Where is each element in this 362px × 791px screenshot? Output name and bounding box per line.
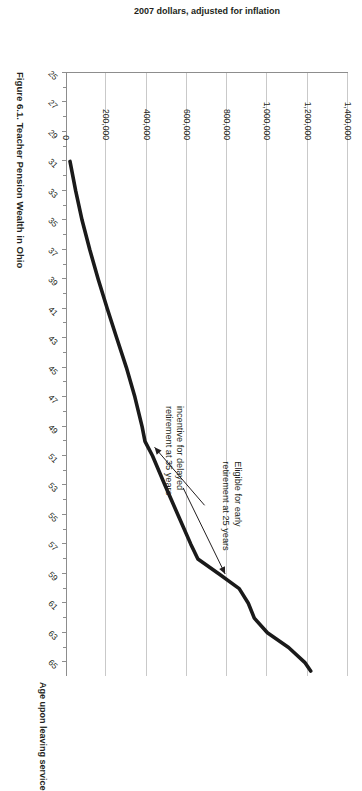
x-axis-tick [62,190,66,191]
x-axis-minor-tick [64,87,67,88]
x-axis-title: Age upon leaving service [38,682,48,791]
series-line-chart [66,73,348,677]
x-axis-minor-tick [64,234,67,235]
x-axis-tick [62,249,66,250]
x-axis-tick-label: 55 [46,510,60,524]
x-axis-tick-label: 35 [46,216,60,230]
x-axis-tick [62,543,66,544]
x-axis-minor-tick [64,146,67,147]
x-axis-tick-label: 31 [46,157,60,171]
x-axis-tick [62,72,66,73]
x-axis-minor-tick [64,588,67,589]
x-axis-tick-label: 47 [46,392,60,406]
x-axis-tick [62,308,66,309]
x-axis-tick [62,396,66,397]
x-axis-minor-tick [64,381,67,382]
x-axis-tick [62,367,66,368]
x-axis-tick [62,514,66,515]
x-axis-tick [62,160,66,161]
x-axis-tick [62,573,66,574]
x-axis-tick [62,337,66,338]
x-axis-tick-label: 39 [46,275,60,289]
x-axis-tick [62,484,66,485]
x-axis-tick-label: 51 [46,451,60,465]
x-axis-tick-label: 45 [46,363,60,377]
x-axis-tick-label: 33 [46,186,60,200]
x-axis-tick [62,661,66,662]
x-axis-minor-tick [64,617,67,618]
x-axis-tick-label: 43 [46,334,60,348]
x-axis-tick [62,426,66,427]
x-axis-tick-label: 65 [46,658,60,672]
x-axis-tick [62,602,66,603]
series-line [70,161,311,671]
x-axis-tick-label: 41 [46,304,60,318]
x-axis-tick-label: 49 [46,422,60,436]
annotation-early-retirement-line1: Eligible for early [231,461,243,550]
x-axis-tick-label: 53 [46,481,60,495]
x-axis-tick-label: 37 [46,245,60,259]
x-axis-minor-tick [64,558,67,559]
x-axis-minor-tick [64,264,67,265]
x-axis-tick [62,455,66,456]
x-axis-tick [62,101,66,102]
x-axis-tick-label: 25 [46,68,60,82]
plot-area: 0200,000400,000600,000800,0001,000,0001,… [66,72,348,676]
x-axis-minor-tick [64,293,67,294]
x-axis-tick [62,278,66,279]
x-axis-tick-label: 27 [46,98,60,112]
annotation-early-retirement: Eligible for early retirement at 25 year… [220,461,243,550]
x-axis-tick [62,219,66,220]
annotation-delayed-retirement-line2: retirement at 35 years [162,406,174,495]
x-axis-minor-tick [64,205,67,206]
figure-caption: Figure 6.1. Teacher Pension Wealth in Oh… [15,72,26,268]
x-axis-minor-tick [64,116,67,117]
x-axis-minor-tick [64,411,67,412]
annotation-early-retirement-line2: retirement at 25 years [220,461,232,550]
x-axis-minor-tick [64,647,67,648]
x-axis-tick-label: 61 [46,599,60,613]
x-axis-tick-label: 59 [46,569,60,583]
x-axis-tick [62,131,66,132]
x-axis-tick [62,632,66,633]
annotation-delayed-retirement-line1: incentive for delayed [174,406,186,495]
x-axis-tick-label: 57 [46,540,60,554]
annotation-delayed-retirement: incentive for delayed retirement at 35 y… [162,406,185,495]
x-axis-tick-label: 29 [46,127,60,141]
x-axis-minor-tick [64,175,67,176]
x-axis-tick-label: 63 [46,628,60,642]
x-axis-minor-tick [64,529,67,530]
x-axis-minor-tick [64,470,67,471]
x-axis-minor-tick [64,352,67,353]
y-axis-title: 2007 dollars, adjusted for inflation [134,6,280,16]
x-axis-minor-tick [64,440,67,441]
x-axis-minor-tick [64,322,67,323]
x-axis-minor-tick [64,499,67,500]
